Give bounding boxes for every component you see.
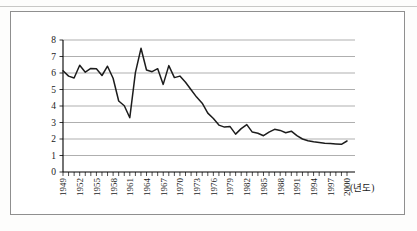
y-gridlines [63,40,355,172]
x-tick-label: 1952 [75,178,85,196]
y-tick-label: 0 [51,167,56,177]
x-tick-label: 1994 [309,178,319,197]
document-page: 0123456781949195219551958196119641967197… [0,0,417,231]
x-tick-label: 1979 [225,178,235,197]
x-tick-label: 1958 [109,178,119,197]
x-tick-label: 1985 [259,178,269,197]
x-tick-label: 1949 [58,178,68,197]
x-tick-label: 1988 [276,178,286,197]
x-axis-tick-labels: 1949195219551958196119641967197019731976… [58,178,352,197]
x-tick-label: 1955 [92,178,102,197]
y-tick-label: 4 [51,101,56,111]
y-tick-label: 7 [51,52,56,62]
x-tick-label: 1973 [192,178,202,197]
data-series-line [63,48,347,144]
x-axis-ticks [63,172,347,176]
y-axis-labels: 012345678 [51,35,56,177]
x-tick-label: 1997 [326,178,336,197]
fertility-rate-line-chart: 0123456781949195219551958196119641967197… [0,0,417,231]
x-tick-label: 1982 [242,178,252,196]
x-tick-label: 1964 [142,178,152,197]
x-tick-label: 1961 [125,178,135,196]
y-tick-label: 6 [51,68,56,78]
x-tick-label: 1970 [175,178,185,197]
x-tick-label: 1967 [159,178,169,197]
y-tick-label: 8 [51,35,56,45]
y-tick-label: 3 [51,118,56,128]
y-tick-label: 2 [51,134,56,144]
x-tick-label: 1976 [209,178,219,197]
y-tick-label: 5 [51,85,56,95]
y-tick-label: 1 [51,151,56,161]
x-tick-label: 1991 [292,178,302,196]
x-axis-unit-label: (년도) [350,183,374,194]
